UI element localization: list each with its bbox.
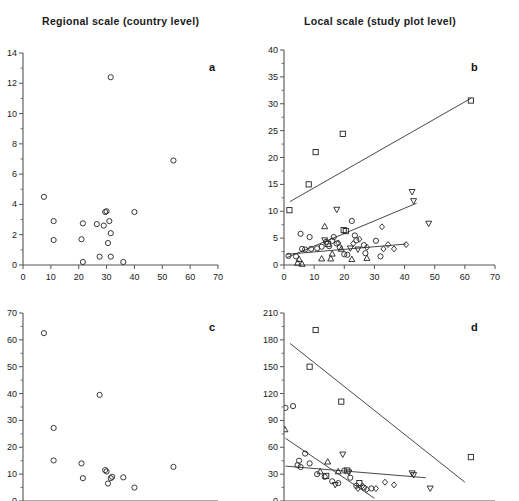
svg-text:40: 40 bbox=[7, 389, 17, 399]
svg-text:70: 70 bbox=[213, 272, 223, 282]
svg-text:30: 30 bbox=[369, 272, 379, 282]
figure-canvas: Regional scale (country level) Local sca… bbox=[0, 0, 519, 501]
svg-text:20: 20 bbox=[7, 442, 17, 452]
svg-text:180: 180 bbox=[263, 335, 278, 345]
panel-d-plot: 0306090120150180210 bbox=[258, 300, 519, 501]
svg-text:20: 20 bbox=[339, 272, 349, 282]
svg-text:30: 30 bbox=[268, 469, 278, 479]
svg-text:35: 35 bbox=[268, 72, 278, 82]
svg-text:2: 2 bbox=[12, 230, 17, 240]
svg-text:30: 30 bbox=[102, 272, 112, 282]
panel-c-plot: 010203040506070 bbox=[0, 300, 250, 501]
svg-text:60: 60 bbox=[460, 272, 470, 282]
svg-text:25: 25 bbox=[268, 126, 278, 136]
svg-text:12: 12 bbox=[7, 78, 17, 88]
svg-text:0: 0 bbox=[281, 272, 286, 282]
svg-text:0: 0 bbox=[273, 496, 278, 501]
svg-text:0: 0 bbox=[12, 496, 17, 501]
svg-text:30: 30 bbox=[7, 415, 17, 425]
svg-text:8: 8 bbox=[12, 139, 17, 149]
svg-text:40: 40 bbox=[129, 272, 139, 282]
column-title-regional: Regional scale (country level) bbox=[42, 15, 199, 27]
svg-text:0: 0 bbox=[12, 260, 17, 270]
svg-text:10: 10 bbox=[46, 272, 56, 282]
svg-text:20: 20 bbox=[268, 153, 278, 163]
svg-text:50: 50 bbox=[7, 362, 17, 372]
svg-text:10: 10 bbox=[268, 206, 278, 216]
panel-a-plot: 02468101214010203040506070 bbox=[0, 40, 250, 285]
column-title-local: Local scale (study plot level) bbox=[304, 15, 456, 27]
svg-text:15: 15 bbox=[268, 179, 278, 189]
svg-text:150: 150 bbox=[263, 362, 278, 372]
svg-text:20: 20 bbox=[74, 272, 84, 282]
svg-text:40: 40 bbox=[400, 272, 410, 282]
svg-text:0: 0 bbox=[273, 260, 278, 270]
svg-text:70: 70 bbox=[7, 308, 17, 318]
svg-text:5: 5 bbox=[273, 233, 278, 243]
panel-b-plot: 0510152025303540010203040506070 bbox=[258, 40, 519, 285]
svg-text:90: 90 bbox=[268, 415, 278, 425]
svg-text:40: 40 bbox=[268, 45, 278, 55]
svg-text:4: 4 bbox=[12, 199, 17, 209]
svg-text:60: 60 bbox=[185, 272, 195, 282]
svg-text:30: 30 bbox=[268, 99, 278, 109]
svg-text:14: 14 bbox=[7, 48, 17, 58]
svg-text:6: 6 bbox=[12, 169, 17, 179]
svg-text:210: 210 bbox=[263, 308, 278, 318]
svg-text:60: 60 bbox=[7, 335, 17, 345]
svg-text:10: 10 bbox=[7, 109, 17, 119]
svg-text:70: 70 bbox=[490, 272, 500, 282]
svg-text:50: 50 bbox=[157, 272, 167, 282]
svg-text:60: 60 bbox=[268, 442, 278, 452]
svg-text:10: 10 bbox=[7, 469, 17, 479]
svg-text:0: 0 bbox=[20, 272, 25, 282]
svg-text:120: 120 bbox=[263, 389, 278, 399]
svg-text:10: 10 bbox=[309, 272, 319, 282]
svg-text:50: 50 bbox=[430, 272, 440, 282]
